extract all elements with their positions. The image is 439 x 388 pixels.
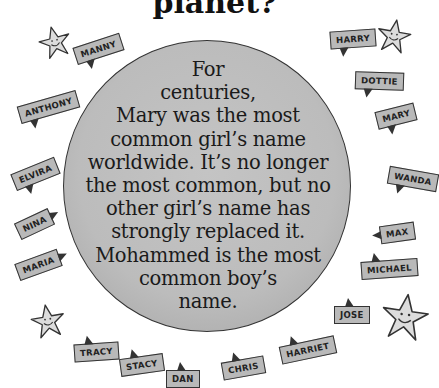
smiling-star-icon (34, 21, 76, 63)
name-bubble: ANTHONY (17, 90, 81, 124)
globe-line: common boy’s (78, 267, 338, 290)
name-bubble: JOSE (334, 306, 370, 324)
name-bubble: WANDA (387, 166, 439, 192)
globe-line: centuries, (78, 81, 338, 104)
name-bubble: ELVIRA (10, 157, 60, 191)
name-bubble: NINA (14, 208, 55, 240)
globe-line: worldwide. It’s no longer (78, 151, 338, 174)
globe-line: strongly replaced it. (78, 220, 338, 243)
name-bubble: TRACY (73, 341, 119, 362)
name-bubble: HARRY (329, 28, 376, 49)
globe-line: name. (78, 290, 338, 313)
name-bubble: CHRIS (221, 355, 266, 380)
smiling-star-icon (377, 289, 433, 345)
globe-line: For (78, 58, 338, 81)
smiling-star-icon (27, 300, 69, 342)
name-bubble: DAN (166, 370, 200, 388)
globe-line: other girl’s name has (78, 197, 338, 220)
name-bubble: HARRIET (279, 335, 337, 364)
globe-line: common girl’s name (78, 128, 338, 151)
name-bubble: MARY (374, 102, 418, 129)
name-bubble: MARIA (14, 249, 62, 281)
page-title: planet? (0, 0, 429, 20)
name-bubble: STACY (119, 353, 165, 377)
name-bubble: MAX (379, 222, 416, 245)
globe-text: For centuries, Mary was the most common … (78, 58, 338, 313)
smiling-star-icon (373, 15, 415, 57)
globe-line: Mary was the most (78, 104, 338, 127)
globe-line: the most common, but no (78, 174, 338, 197)
name-bubble: DOTTIE (355, 71, 404, 91)
globe-line: Mohammed is the most (78, 244, 338, 267)
name-bubble: MICHAEL (360, 258, 418, 280)
